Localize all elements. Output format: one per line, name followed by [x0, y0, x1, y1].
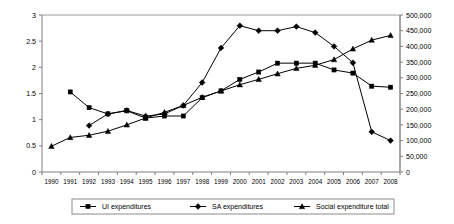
left-value-axis: 00.511.522.53 — [26, 12, 42, 176]
left-axis-tick-label: 0 — [32, 169, 36, 176]
series-marker — [87, 106, 91, 110]
series-line — [70, 63, 390, 118]
right-axis-tick-label: 100,000 — [406, 137, 431, 144]
x-axis-tick-label: 1996 — [157, 178, 172, 185]
series-marker — [388, 138, 394, 144]
left-axis-tick-label: 1 — [32, 116, 36, 123]
x-axis-tick-label: 1992 — [82, 178, 97, 185]
right-axis-tick-label: 0 — [406, 169, 410, 176]
series-marker — [351, 71, 355, 75]
right-axis-tick-label: 200,000 — [406, 106, 431, 113]
series-marker — [370, 84, 374, 88]
series-marker — [293, 24, 299, 30]
x-axis-tick-label: 2004 — [308, 178, 323, 185]
legend-item-label: Social expenditure total — [316, 203, 389, 211]
chart-legend: UI expendituresSA expendituresSocial exp… — [72, 199, 394, 214]
left-axis-tick-label: 3 — [32, 12, 36, 19]
series-marker — [388, 85, 392, 89]
right-axis-tick-label: 50,000 — [406, 153, 428, 160]
series-marker — [369, 129, 375, 135]
series-marker — [68, 90, 72, 94]
x-axis-tick-label: 1999 — [214, 178, 229, 185]
x-axis-tick-label: 2000 — [233, 178, 248, 185]
series-marker — [294, 61, 298, 65]
x-axis-tick-label: 1995 — [139, 178, 154, 185]
left-axis-tick-label: 2.5 — [26, 38, 36, 45]
right-axis-tick-label: 400,000 — [406, 43, 431, 50]
series-marker — [86, 123, 92, 129]
left-axis-tick-label: 0.5 — [26, 142, 36, 149]
series-marker — [331, 57, 336, 62]
x-axis-tick-label: 1997 — [176, 178, 191, 185]
right-axis-tick-label: 250,000 — [406, 90, 431, 97]
x-axis-tick-label: 1994 — [120, 178, 135, 185]
right-axis-tick-label: 450,000 — [406, 27, 431, 34]
x-axis-tick-label: 1993 — [101, 178, 116, 185]
chart-container: 00.511.522.53 050,000100,000150,000200,0… — [0, 0, 454, 224]
x-axis-tick-label: 1998 — [195, 178, 210, 185]
x-axis-tick-label: 1990 — [44, 178, 59, 185]
x-axis-tick-label: 2001 — [252, 178, 267, 185]
data-series-layer — [49, 23, 394, 149]
series-marker — [275, 61, 279, 65]
series-marker — [49, 143, 54, 148]
legend-marker-square — [86, 204, 90, 208]
x-axis-tick-label: 2007 — [365, 178, 380, 185]
series-ui-expenditures — [68, 61, 393, 120]
category-axis: 1990199119921993199419951996199719981999… — [42, 172, 400, 185]
left-axis-tick-label: 2 — [32, 64, 36, 71]
right-axis-tick-label: 350,000 — [406, 59, 431, 66]
x-axis-tick-label: 2008 — [384, 178, 399, 185]
series-marker — [350, 46, 355, 51]
chart-plot-svg: 00.511.522.53 050,000100,000150,000200,0… — [0, 0, 454, 224]
right-axis-tick-label: 500,000 — [406, 12, 431, 19]
right-value-axis: 050,000100,000150,000200,000250,000300,0… — [400, 12, 431, 176]
series-marker — [238, 77, 242, 81]
right-axis-tick-label: 300,000 — [406, 74, 431, 81]
right-axis-tick-label: 150,000 — [406, 122, 431, 129]
left-axis-tick-label: 1.5 — [26, 90, 36, 97]
x-axis-tick-label: 2005 — [327, 178, 342, 185]
series-marker — [275, 28, 281, 34]
series-marker — [332, 68, 336, 72]
series-marker — [257, 70, 261, 74]
x-axis-tick-label: 2002 — [271, 178, 286, 185]
series-marker — [388, 33, 393, 38]
plot-frame — [42, 15, 400, 172]
series-marker — [181, 114, 185, 118]
x-axis-tick-label: 2003 — [289, 178, 304, 185]
series-marker — [256, 28, 262, 34]
legend-item-label: UI expenditures — [102, 203, 152, 211]
x-axis-tick-label: 2006 — [346, 178, 361, 185]
legend-item-label: SA expenditures — [212, 203, 263, 211]
x-axis-tick-label: 1991 — [63, 178, 78, 185]
